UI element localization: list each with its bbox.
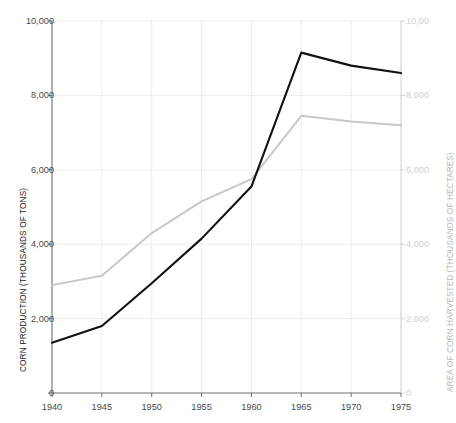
left-tick-label: 6,000 (31, 165, 54, 175)
left-tick-label: 4,000 (31, 239, 54, 249)
x-tick-label: 1940 (42, 402, 62, 412)
series-line-corn-production (52, 53, 401, 343)
x-tick-label: 1965 (291, 402, 311, 412)
x-tick-label: 1970 (341, 402, 361, 412)
right-tick-label: 6,000 (406, 165, 429, 175)
series-lines (52, 53, 401, 343)
x-tick-label: 1975 (391, 402, 411, 412)
x-tick-label: 1945 (92, 402, 112, 412)
corn-chart: 02,0004,0006,0008,00010,000 02,0004,0006… (0, 0, 456, 423)
left-tick-label: 10,000 (26, 16, 54, 26)
left-axis-title: CORN PRODUCTION (THOUSANDS OF TONS) (19, 188, 28, 372)
left-tick-label: 8,000 (31, 90, 54, 100)
x-tick-label: 1955 (191, 402, 211, 412)
series-line-area-harvested (52, 116, 401, 285)
right-tick-label: 4,000 (406, 239, 429, 249)
right-tick-label: 8,000 (406, 90, 429, 100)
axis-lines (52, 21, 401, 393)
right-tick-label: 0 (406, 388, 411, 398)
right-tick-label: 2,000 (406, 314, 429, 324)
x-tick-label: 1950 (141, 402, 161, 412)
gridlines (52, 21, 401, 393)
left-tick-label: 2,000 (31, 314, 54, 324)
left-tick-label: 0 (49, 388, 54, 398)
x-tick-label: 1960 (241, 402, 261, 412)
chart-plot-area (0, 0, 456, 423)
right-axis-title: AREA OF CORN HARVESTED (THOUSANDS OF HEC… (446, 152, 455, 392)
right-tick-label: 10,00 (406, 16, 429, 26)
